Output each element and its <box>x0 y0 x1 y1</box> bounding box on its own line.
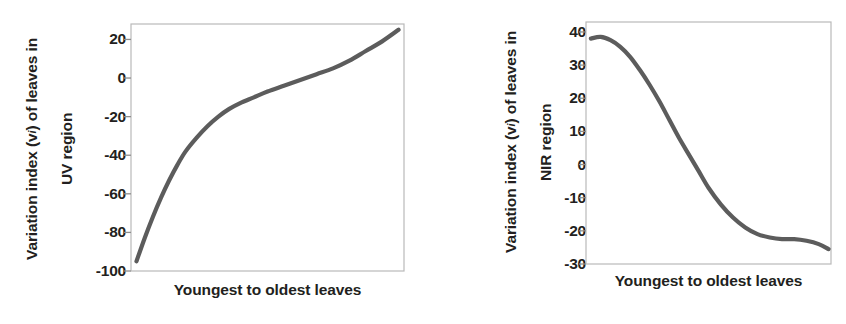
data-curve-uv <box>136 30 398 262</box>
data-curve-nir <box>591 37 829 249</box>
plot-frame-nir <box>586 22 831 264</box>
y-axis-tickmarks-uv <box>124 39 131 271</box>
x-axis-label-nir: Youngest to oldest leaves <box>586 272 831 290</box>
plot-area-uv <box>0 0 423 324</box>
y-axis-tickmarks-nir <box>579 32 586 264</box>
chart-panel-nir: Variation index (vi) of leaves in NIR re… <box>423 0 846 324</box>
chart-panel-uv: Variation index (vi) of leaves in UV reg… <box>0 0 423 324</box>
plot-frame-uv <box>131 24 404 271</box>
x-axis-label-uv: Youngest to oldest leaves <box>131 281 404 299</box>
figure-two-panel-line-charts: Variation index (vi) of leaves in UV reg… <box>0 0 846 324</box>
